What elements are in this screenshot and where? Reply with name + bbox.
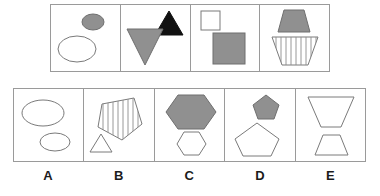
option-c-figures [155, 89, 225, 161]
panel-4-figures [260, 5, 330, 71]
small-white-square [201, 11, 220, 30]
option-d[interactable] [225, 89, 295, 161]
label-d: D [225, 165, 296, 189]
option-e-figures [296, 89, 366, 161]
option-e[interactable] [296, 89, 365, 161]
small-white-hexagon [177, 132, 206, 155]
answer-options [13, 88, 366, 162]
large-white-ellipse [58, 36, 96, 62]
question-panel-3 [191, 5, 261, 71]
option-d-figures [225, 89, 295, 161]
question-sequence [50, 4, 330, 72]
large-gray-square [213, 33, 245, 64]
option-c[interactable] [155, 89, 225, 161]
option-a-figures [14, 89, 84, 161]
small-gray-ellipse [82, 14, 104, 30]
puzzle-stage: A B C D E [0, 0, 380, 196]
panel-1-figures [51, 5, 121, 71]
panel-3-figures [191, 5, 261, 71]
small-gray-pentagon [253, 95, 279, 119]
label-e: E [295, 165, 366, 189]
large-white-ellipse [22, 100, 64, 126]
large-gray-triangle-down [127, 29, 163, 65]
option-b[interactable] [84, 89, 154, 161]
small-white-trapezoid-up [315, 135, 348, 155]
option-labels: A B C D E [13, 165, 366, 189]
label-a: A [13, 165, 84, 189]
panel-2-figures [121, 5, 191, 71]
option-a[interactable] [14, 89, 84, 161]
small-white-ellipse [40, 133, 70, 151]
label-c: C [154, 165, 225, 189]
large-white-pentagon [235, 123, 279, 156]
label-b: B [84, 165, 155, 189]
question-panel-1 [51, 5, 121, 71]
large-gray-hexagon [166, 95, 216, 129]
question-panel-4 [260, 5, 329, 71]
option-b-figures [84, 89, 154, 161]
question-panel-2 [121, 5, 191, 71]
large-striped-pentagon [98, 98, 142, 140]
small-white-triangle [90, 134, 112, 152]
large-white-trapezoid-down [308, 97, 354, 127]
small-gray-trapezoid [278, 10, 310, 32]
